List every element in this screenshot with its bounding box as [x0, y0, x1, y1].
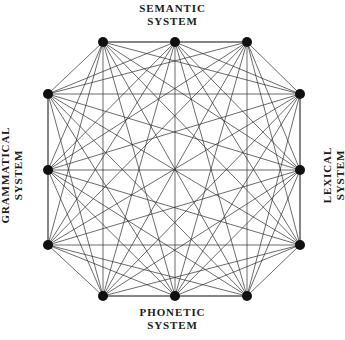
graph-edge — [48, 170, 103, 296]
graph-edge — [247, 42, 300, 170]
graph-node — [295, 240, 305, 250]
graph-edge — [48, 245, 175, 296]
graph-edge — [175, 42, 300, 94]
graph-node — [98, 291, 108, 301]
graph-edge — [247, 170, 300, 296]
graph-edge — [247, 245, 300, 296]
label-phonetic-system: PHONETIC SYSTEM — [0, 306, 345, 332]
graph-edge — [48, 42, 103, 245]
graph-node — [295, 165, 305, 175]
graph-edge — [247, 42, 300, 94]
complete-graph-svg — [0, 0, 345, 340]
graph-edge — [48, 170, 247, 296]
graph-edge — [48, 42, 103, 170]
edge-group — [48, 42, 300, 296]
graph-edge — [48, 94, 103, 296]
graph-node — [98, 37, 108, 47]
graph-edge — [48, 245, 103, 296]
label-lexical-system: LEXICAL SYSTEM — [321, 115, 345, 235]
diagram-figure: SEMANTIC SYSTEM PHONETIC SYSTEM GRAMMATI… — [0, 0, 345, 340]
node-group — [43, 37, 305, 301]
graph-node — [43, 240, 53, 250]
graph-edge — [103, 42, 300, 245]
graph-edge — [103, 42, 300, 94]
graph-edge — [247, 42, 300, 245]
label-semantic-system: SEMANTIC SYSTEM — [0, 2, 345, 28]
graph-node — [295, 89, 305, 99]
graph-node — [43, 89, 53, 99]
graph-edge — [103, 42, 300, 170]
graph-edge — [175, 94, 300, 296]
graph-node — [170, 37, 180, 47]
graph-node — [170, 291, 180, 301]
graph-edge — [103, 170, 300, 296]
graph-node — [242, 37, 252, 47]
graph-edge — [48, 42, 103, 94]
graph-node — [242, 291, 252, 301]
graph-edge — [48, 42, 175, 94]
graph-edge — [175, 245, 300, 296]
label-grammatical-system: GRAMMATICAL SYSTEM — [0, 115, 25, 235]
graph-edge — [48, 42, 247, 170]
graph-node — [43, 165, 53, 175]
